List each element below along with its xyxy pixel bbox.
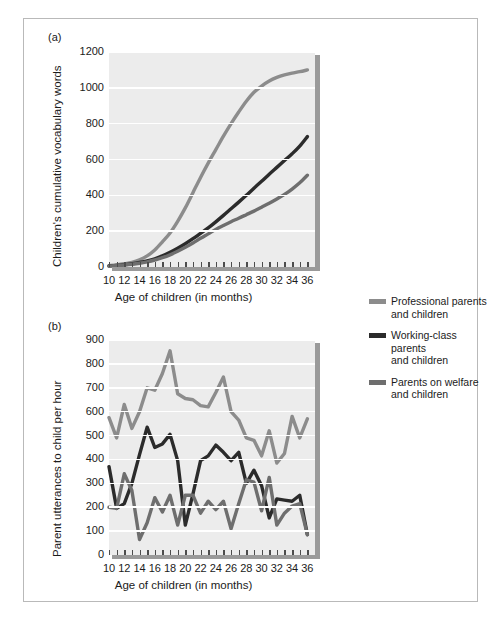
x-tick-22 <box>201 262 202 267</box>
legend-item-professional: Professional parentsand children <box>369 295 494 320</box>
x-tick-20 <box>185 262 186 267</box>
legend-label-line1: Working-class parents <box>391 329 494 354</box>
panel-b-plot-bottom-shadow <box>112 555 320 559</box>
y-tick-label-0: 0 <box>54 261 104 272</box>
gridline-1200 <box>109 51 315 53</box>
panel-b-series-lines <box>109 340 315 555</box>
x-tick-28 <box>246 262 247 267</box>
gridline-100 <box>109 530 315 532</box>
x-tick-16 <box>155 262 156 267</box>
panel-b-plot-area <box>109 340 315 555</box>
x-tick-16 <box>155 550 156 555</box>
y-tick-label-200: 200 <box>54 501 104 512</box>
gridline-600 <box>109 159 315 161</box>
legend-item-working_class: Working-class parentsand children <box>369 329 494 367</box>
y-tick-label-200: 200 <box>54 225 104 236</box>
gridline-300 <box>109 483 315 485</box>
x-tick-23 <box>208 262 209 267</box>
y-tick-label-100: 100 <box>54 525 104 536</box>
gridline-800 <box>109 363 315 365</box>
y-tick-label-500: 500 <box>54 430 104 441</box>
y-tick-label-1000: 1000 <box>54 82 104 93</box>
x-tick-21 <box>193 550 194 555</box>
x-tick-29 <box>254 550 255 555</box>
series-line-1 <box>109 427 307 535</box>
x-tick-18 <box>170 262 171 267</box>
x-tick-label-36: 36 <box>296 563 318 574</box>
x-tick-36 <box>307 550 308 555</box>
legend-swatch-icon-welfare <box>369 380 386 385</box>
x-tick-19 <box>178 262 179 267</box>
gridline-400 <box>109 195 315 197</box>
y-tick-label-700: 700 <box>54 382 104 393</box>
gridline-900 <box>109 339 315 341</box>
x-tick-30 <box>262 550 263 555</box>
x-tick-26 <box>231 550 232 555</box>
legend-label-working_class: Working-class parentsand children <box>391 329 494 367</box>
y-tick-label-400: 400 <box>54 453 104 464</box>
legend-label-line2: and children <box>391 388 494 401</box>
x-tick-34 <box>292 262 293 267</box>
y-tick-label-0: 0 <box>54 549 104 560</box>
y-tick-label-1200: 1200 <box>54 46 104 57</box>
y-tick-label-900: 900 <box>54 334 104 345</box>
x-tick-11 <box>117 550 118 555</box>
x-tick-13 <box>132 550 133 555</box>
gridline-500 <box>109 435 315 437</box>
legend-label-line1: Professional parents <box>391 295 494 308</box>
panel-a-x-axis-title: Age of children (in months) <box>0 291 411 303</box>
y-tick-label-600: 600 <box>54 406 104 417</box>
figure-container: (a) Children's cumulative vocabulary wor… <box>0 0 502 624</box>
panel-a-plot-bottom-shadow <box>112 267 320 271</box>
x-tick-31 <box>269 262 270 267</box>
gridline-1000 <box>109 87 315 89</box>
x-tick-32 <box>277 262 278 267</box>
x-tick-34 <box>292 550 293 555</box>
x-tick-23 <box>208 550 209 555</box>
gridline-800 <box>109 123 315 125</box>
x-tick-27 <box>239 262 240 267</box>
panel-b-plot-right-shadow <box>315 343 320 558</box>
series-line-1 <box>109 137 307 266</box>
series-line-0 <box>109 351 307 463</box>
x-tick-22 <box>201 550 202 555</box>
x-tick-label-36: 36 <box>296 275 318 286</box>
x-tick-12 <box>124 262 125 267</box>
x-tick-26 <box>231 262 232 267</box>
legend-label-professional: Professional parentsand children <box>391 295 494 320</box>
x-tick-35 <box>300 262 301 267</box>
panel-a-plot-area <box>109 52 315 267</box>
x-tick-27 <box>239 550 240 555</box>
x-tick-36 <box>307 262 308 267</box>
legend-label-line1: Parents on welfare <box>391 376 494 389</box>
x-tick-25 <box>223 262 224 267</box>
x-tick-35 <box>300 550 301 555</box>
y-tick-label-300: 300 <box>54 477 104 488</box>
x-tick-13 <box>132 262 133 267</box>
y-tick-label-800: 800 <box>54 358 104 369</box>
x-tick-28 <box>246 550 247 555</box>
gridline-200 <box>109 230 315 232</box>
gridline-700 <box>109 387 315 389</box>
x-tick-30 <box>262 262 263 267</box>
panel-a-y-axis-title: Children's cumulative vocabulary words <box>51 65 63 267</box>
x-tick-21 <box>193 262 194 267</box>
x-tick-19 <box>178 550 179 555</box>
panel-a-plot-right-shadow <box>315 55 320 270</box>
legend-swatch-icon-professional <box>369 299 386 304</box>
x-tick-17 <box>162 550 163 555</box>
x-tick-29 <box>254 262 255 267</box>
x-tick-33 <box>284 262 285 267</box>
x-tick-18 <box>170 550 171 555</box>
legend-item-welfare: Parents on welfareand children <box>369 376 494 401</box>
x-tick-25 <box>223 550 224 555</box>
x-tick-32 <box>277 550 278 555</box>
figure-frame: (a) Children's cumulative vocabulary wor… <box>23 18 478 602</box>
x-tick-11 <box>117 262 118 267</box>
panel-b-label: (b) <box>48 320 61 332</box>
x-tick-14 <box>140 550 141 555</box>
legend-label-welfare: Parents on welfareand children <box>391 376 494 401</box>
panel-a-label: (a) <box>48 31 61 43</box>
legend-label-line2: and children <box>391 354 494 367</box>
x-tick-12 <box>124 550 125 555</box>
